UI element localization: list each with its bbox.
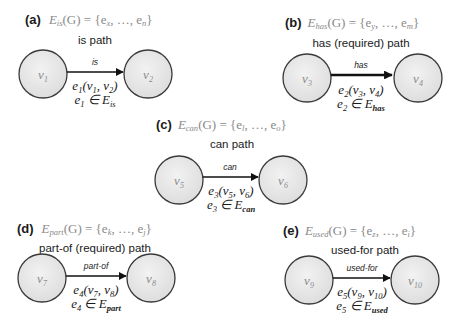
panel-c-title: (c) Ecan(G) = {el, …, eo}: [156, 115, 287, 133]
node-v5: v5: [155, 156, 203, 204]
node-v8: v8: [127, 254, 175, 302]
panel-e-letter: (e): [283, 223, 299, 238]
panel-c-can-path: (c) Ecan(G) = {el, …, eo} can path v5 v6…: [155, 115, 307, 214]
panel-b-title: (b) Ehas(G) = {ey, …, em}: [285, 13, 419, 31]
panel-c-description: can path: [210, 138, 254, 150]
node-v3: v3: [283, 54, 331, 102]
node-v10-circle: [391, 256, 439, 304]
edge-e2-label: has: [354, 60, 368, 70]
panel-b-description: has (required) path: [312, 37, 409, 49]
edge-e5-label: used-for: [346, 263, 378, 273]
panel-d-letter: (d): [17, 221, 34, 236]
panel-d-description: part-of (required) path: [39, 242, 151, 254]
panel-e-description: used-for path: [331, 244, 399, 256]
edge-e4-label: part-of: [83, 261, 110, 271]
panel-d-part-of-path: (d) Epart(G) = {ek, …, ej} part-of (requ…: [17, 219, 175, 313]
panel-a-letter: (a): [25, 12, 41, 27]
node-v7: v7: [18, 254, 66, 302]
node-v10: v10: [391, 256, 439, 304]
panel-e-title: (e) Eused(G) = {ez, …, ei}: [283, 221, 416, 239]
edge-e3-label: can: [223, 162, 237, 172]
panel-a-title: (a) Eis(G) = {ex, …, en}: [25, 10, 152, 28]
panel-b-has-path: (b) Ehas(G) = {ey, …, em} has (required)…: [283, 13, 442, 113]
panel-c-letter: (c): [156, 117, 172, 132]
node-v6: v6: [259, 156, 307, 204]
panel-a-description: is path: [78, 34, 112, 46]
panel-d-title: (d) Epart(G) = {ek, …, ej}: [17, 219, 152, 237]
node-v9: v9: [285, 256, 333, 304]
node-v4: v4: [394, 54, 442, 102]
node-v2: v2: [124, 50, 172, 98]
edge-e1-label: is: [92, 57, 99, 67]
panel-a-is-path: (a) Eis(G) = {ex, …, en} is path v1 v2 i…: [19, 10, 172, 109]
panel-b-letter: (b): [285, 15, 302, 30]
path-types-diagram: (a) Eis(G) = {ex, …, en} is path v1 v2 i…: [0, 0, 454, 327]
node-v1: v1: [19, 50, 67, 98]
panel-e-used-for-path: (e) Eused(G) = {ez, …, ei} used-for path…: [283, 221, 439, 315]
